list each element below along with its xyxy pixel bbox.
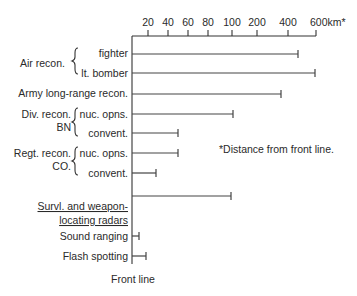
x-axis-ticks [148,30,316,36]
svg-text:convent.: convent. [88,167,128,179]
svg-text:80: 80 [202,16,214,28]
svg-text:Front line: Front line [111,273,155,285]
svg-text:CO.: CO. [52,160,71,172]
svg-text:lt. bomber: lt. bomber [81,67,128,79]
svg-text:fighter: fighter [99,47,129,59]
div-recon-brace [72,108,78,136]
range-chart: 20 40 60 80 100 200 400 600km* Air recon… [0,0,357,296]
svg-text:400: 400 [279,16,297,28]
svg-text:Flash spotting: Flash spotting [63,250,129,262]
bars [132,50,315,260]
svg-text:Div. recon.: Div. recon. [22,108,71,120]
svg-text:600km*: 600km* [310,16,346,28]
svg-text:nuc. opns.: nuc. opns. [80,108,128,120]
svg-text:nuc. opns.: nuc. opns. [80,147,128,159]
svg-text:BN: BN [56,121,71,133]
regt-recon-brace [72,147,78,175]
svg-text:100: 100 [223,16,241,28]
svg-text:Army long-range recon.: Army long-range recon. [18,87,128,99]
x-axis-tick-labels: 20 40 60 80 100 200 400 600km* [142,16,345,28]
svg-text:locating radars: locating radars [59,214,128,226]
svg-text:Survl. and weapon-: Survl. and weapon- [38,200,129,212]
svg-text:60: 60 [182,16,194,28]
svg-text:Regt. recon.: Regt. recon. [14,147,71,159]
footnote: *Distance from front line. [219,143,334,155]
air-recon-brace [72,48,78,74]
svg-text:Sound ranging: Sound ranging [60,230,128,242]
svg-text:20: 20 [142,16,154,28]
svg-text:Air recon.: Air recon. [20,57,65,69]
svg-text:200: 200 [248,16,266,28]
svg-text:convent.: convent. [88,127,128,139]
svg-text:40: 40 [162,16,174,28]
category-labels: Air recon. fighter lt. bomber Army long-… [14,47,155,285]
